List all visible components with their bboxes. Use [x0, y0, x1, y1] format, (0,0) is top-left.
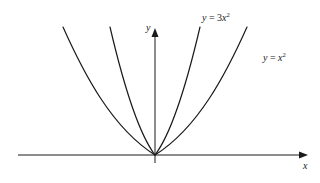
y-axis-label: y: [146, 23, 150, 33]
curve-label-3x-squared-eq: = 3: [206, 12, 222, 23]
parabola-comparison-figure: y = 3x2 y = x2 y x: [0, 0, 320, 183]
curve-label-x-squared-eq: =: [267, 52, 278, 63]
x-axis-arrowhead-icon: [299, 152, 308, 159]
plot-canvas: [0, 0, 320, 183]
curve-label-3x-squared-exponent: 2: [227, 11, 230, 18]
curve-label-x-squared-exponent: 2: [283, 51, 286, 58]
curve-label-x-squared: y = x2: [263, 53, 286, 63]
x-axis-label: x: [303, 161, 307, 171]
y-axis-arrowhead-icon: [152, 28, 159, 37]
curve-label-3x-squared: y = 3x2: [202, 13, 230, 23]
